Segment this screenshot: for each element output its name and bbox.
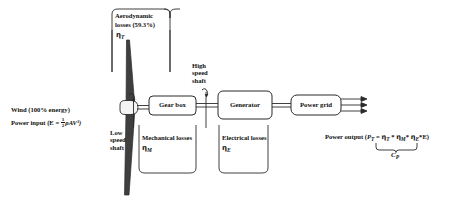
generator-label[interactable]: Generator — [218, 101, 272, 108]
eta-subscript-elec: E — [227, 147, 231, 153]
high-speed-shaft-label: High speed shaft — [192, 62, 208, 84]
aerodynamic-losses-line1: Aerodynamic — [115, 12, 153, 19]
operator-3: *E) — [419, 133, 429, 140]
power-output-arrows — [341, 97, 367, 114]
aerodynamic-losses-line2: losses (59.3%) — [115, 21, 155, 28]
gear-box-label[interactable]: Gear box — [149, 101, 196, 108]
eta-subscript-aero: T — [121, 34, 124, 40]
wind-input-line1: Wind (100% energy) — [11, 106, 70, 113]
high-speed-shaft-line — [196, 92, 218, 128]
cp-subscript: P — [396, 154, 399, 160]
mechanical-efficiency-label: ηM — [142, 145, 152, 153]
power-output-prefix: Power output ( — [325, 133, 367, 140]
cp-label: CP — [391, 152, 399, 160]
power-output-formula: Power output (PT = ηT * ηM* ηE*E) — [325, 133, 429, 142]
power-input-prefix: Power input (E = — [11, 119, 61, 126]
high-speed-rotation-icon — [202, 89, 208, 98]
low-speed-shaft-line1: Low — [110, 129, 126, 136]
wind-input-formula: Power input (E = 12ρAV³) — [11, 117, 81, 128]
power-grid-label[interactable]: Power grid — [291, 101, 341, 108]
mechanical-losses-label: Mechanical losses — [142, 134, 192, 141]
generator-grid-link — [272, 104, 291, 108]
diagram-canvas: Aerodynamic losses (59.3%) ηT Wind (100%… — [0, 0, 461, 210]
electrical-efficiency-label: ηE — [222, 145, 231, 153]
electrical-losses-label: Electrical losses — [222, 134, 267, 141]
eta-subscript-mech: M — [147, 147, 152, 153]
power-input-tail: ρAV³) — [65, 119, 81, 126]
turbine-hub — [120, 101, 138, 115]
low-speed-shaft-line2: speed — [110, 136, 126, 143]
low-speed-shaft-label: Low speed shaft — [110, 129, 126, 151]
high-speed-shaft-line3: shaft — [192, 77, 208, 84]
low-speed-shaft-line3: shaft — [110, 144, 126, 151]
aerodynamic-efficiency-label: ηT — [116, 32, 124, 40]
high-speed-shaft-line2: speed — [192, 69, 208, 76]
high-speed-shaft-line1: High — [192, 62, 208, 69]
